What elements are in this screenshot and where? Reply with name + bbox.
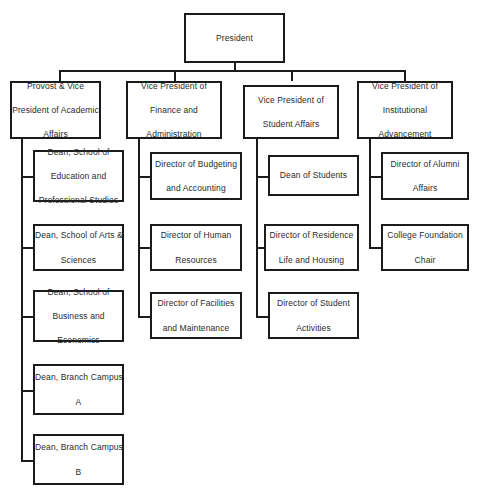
node-hr-line1: Director of Human bbox=[152, 229, 240, 241]
node-vp-advancement-line1: Vice President of bbox=[359, 80, 451, 92]
connector-elbow-education bbox=[21, 176, 33, 178]
connector-elbow-activities bbox=[256, 316, 268, 318]
node-residence-line2: Life and Housing bbox=[266, 254, 357, 266]
node-dean-education[interactable]: Dean, School of Education and Profession… bbox=[33, 150, 124, 202]
connector-drop-student bbox=[291, 70, 293, 81]
node-dean-business-line1: Dean, School of bbox=[35, 286, 122, 298]
connector-elbow-budgeting bbox=[138, 176, 150, 178]
node-provost[interactable]: Provost & Vice President of Academic Aff… bbox=[10, 81, 101, 139]
node-foundation-line2: Chair bbox=[383, 254, 467, 266]
node-director-student-activities[interactable]: Director of Student Activities bbox=[268, 292, 359, 339]
node-dean-arts-sciences[interactable]: Dean, School of Arts & Sciences bbox=[33, 224, 124, 271]
connector-elbow-facilities bbox=[138, 316, 150, 318]
connector-spine-academic bbox=[21, 139, 23, 461]
connector-elbow-branch-b bbox=[21, 460, 33, 462]
connector-executive-bus bbox=[59, 70, 405, 72]
connector-elbow-business bbox=[21, 316, 33, 318]
node-vp-finance-line3: Administration bbox=[128, 128, 220, 140]
node-director-residence-life[interactable]: Director of Residence Life and Housing bbox=[264, 224, 359, 271]
node-vp-advancement-line3: Advancement bbox=[359, 128, 451, 140]
node-provost-line3: Affairs bbox=[12, 128, 99, 140]
node-provost-line1: Provost & Vice bbox=[12, 80, 99, 92]
node-dean-business-line2: Business and bbox=[35, 310, 122, 322]
node-vp-student-line2: Student Affairs bbox=[245, 118, 337, 130]
node-college-foundation-chair[interactable]: College Foundation Chair bbox=[381, 224, 469, 271]
node-dean-branch-campus-b[interactable]: Dean, Branch Campus B bbox=[33, 434, 124, 485]
node-branch-b-line1: Dean, Branch Campus bbox=[35, 441, 122, 453]
node-provost-line2: President of Academic bbox=[12, 104, 99, 116]
node-president-label: President bbox=[186, 32, 283, 44]
node-dean-business-line3: Economics bbox=[35, 334, 122, 346]
node-vp-finance-line2: Finance and bbox=[128, 104, 220, 116]
connector-spine-advancement bbox=[369, 139, 371, 248]
node-hr-line2: Resources bbox=[152, 254, 240, 266]
node-president[interactable]: President bbox=[184, 13, 285, 63]
node-branch-a-line1: Dean, Branch Campus bbox=[35, 371, 122, 383]
node-vp-finance-line1: Vice President of bbox=[128, 80, 220, 92]
node-vp-advancement-line2: Institutional bbox=[359, 104, 451, 116]
connector-elbow-arts bbox=[21, 247, 33, 249]
node-dean-education-line1: Dean, School of bbox=[35, 146, 122, 158]
node-dean-of-students[interactable]: Dean of Students bbox=[268, 155, 359, 196]
connector-elbow-foundation bbox=[369, 247, 381, 249]
connector-elbow-alumni bbox=[369, 176, 381, 178]
node-facilities-line2: and Maintenance bbox=[152, 322, 240, 334]
node-budgeting-line2: and Accounting bbox=[152, 182, 240, 194]
node-activities-line1: Director of Student bbox=[270, 297, 357, 309]
connector-spine-student bbox=[256, 139, 258, 317]
node-dean-business[interactable]: Dean, School of Business and Economics bbox=[33, 290, 124, 342]
node-facilities-line1: Director of Facilities bbox=[152, 297, 240, 309]
node-branch-b-line2: B bbox=[35, 466, 122, 478]
node-vp-student-affairs[interactable]: Vice President of Student Affairs bbox=[243, 85, 339, 139]
node-dean-branch-campus-a[interactable]: Dean, Branch Campus A bbox=[33, 364, 124, 415]
node-dean-arts-line2: Sciences bbox=[35, 254, 122, 266]
org-chart: President Provost & Vice President of Ac… bbox=[0, 0, 487, 492]
node-dean-education-line2: Education and bbox=[35, 170, 122, 182]
connector-spine-finance bbox=[138, 139, 140, 317]
node-branch-a-line2: A bbox=[35, 396, 122, 408]
node-dean-arts-line1: Dean, School of Arts & bbox=[35, 229, 122, 241]
connector-elbow-hr bbox=[138, 247, 150, 249]
connector-elbow-branch-a bbox=[21, 390, 33, 392]
node-foundation-line1: College Foundation bbox=[383, 229, 467, 241]
node-director-hr[interactable]: Director of Human Resources bbox=[150, 224, 242, 271]
connector-elbow-dean-students bbox=[256, 176, 268, 178]
node-director-alumni-affairs[interactable]: Director of Alumni Affairs bbox=[381, 152, 469, 200]
node-activities-line2: Activities bbox=[270, 322, 357, 334]
node-residence-line1: Director of Residence bbox=[266, 229, 357, 241]
node-dean-students-line1: Dean of Students bbox=[270, 169, 357, 181]
node-director-budgeting[interactable]: Director of Budgeting and Accounting bbox=[150, 152, 242, 200]
node-vp-advancement[interactable]: Vice President of Institutional Advancem… bbox=[357, 81, 453, 139]
node-alumni-line2: Affairs bbox=[383, 182, 467, 194]
node-vp-student-line1: Vice President of bbox=[245, 94, 337, 106]
node-alumni-line1: Director of Alumni bbox=[383, 158, 467, 170]
node-budgeting-line1: Director of Budgeting bbox=[152, 158, 240, 170]
node-dean-education-line3: Professional Studies bbox=[35, 194, 122, 206]
node-director-facilities[interactable]: Director of Facilities and Maintenance bbox=[150, 292, 242, 339]
node-vp-finance[interactable]: Vice President of Finance and Administra… bbox=[126, 81, 222, 139]
